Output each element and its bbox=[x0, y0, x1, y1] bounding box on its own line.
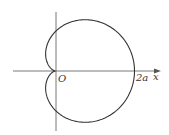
origin-label: O bbox=[58, 74, 66, 84]
cardioid-diagram bbox=[0, 0, 169, 135]
x-axis-label: x bbox=[153, 72, 159, 82]
intercept-label: 2a bbox=[136, 73, 148, 83]
